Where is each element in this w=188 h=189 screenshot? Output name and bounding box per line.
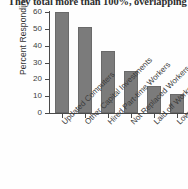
y-tick	[45, 79, 50, 80]
y-tick-label: 20	[22, 75, 42, 83]
y-tick-label: 50	[22, 25, 42, 33]
y-tick	[45, 113, 50, 114]
y-tick-label: 30	[22, 59, 42, 67]
y-tick	[45, 12, 50, 13]
y-tick-label: 60	[22, 8, 42, 16]
y-tick-label: 0	[22, 109, 42, 117]
y-tick-label: 10	[22, 92, 42, 100]
y-tick	[45, 96, 50, 97]
y-tick	[45, 46, 50, 47]
bar-chart-figure: They total more than 100%, overlapping P…	[0, 0, 188, 189]
figure-caption: They total more than 100%, overlapping	[8, 0, 188, 7]
y-tick	[45, 63, 50, 64]
y-tick	[45, 29, 50, 30]
bar	[55, 12, 69, 113]
y-tick-label: 40	[22, 42, 42, 50]
